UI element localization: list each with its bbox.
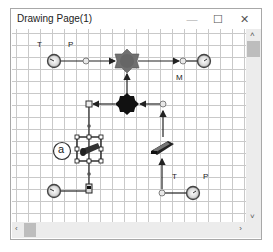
gauge-bottom-right[interactable] bbox=[186, 186, 200, 200]
label-t-bottom: T bbox=[172, 172, 177, 181]
label-p-bottom: P bbox=[203, 172, 208, 181]
scrollbar-corner bbox=[246, 222, 261, 238]
pump-component[interactable] bbox=[150, 140, 175, 156]
gauge-top-left[interactable] bbox=[47, 54, 61, 68]
drawing-canvas[interactable]: T P M T P a bbox=[12, 29, 246, 223]
scroll-right-arrow[interactable]: › bbox=[239, 224, 242, 233]
label-t-top: T bbox=[37, 40, 42, 49]
gauge-top-right[interactable] bbox=[197, 54, 211, 68]
horizontal-scrollbar[interactable]: ‹ › bbox=[12, 222, 246, 238]
vertical-scroll-thumb[interactable] bbox=[247, 41, 260, 57]
minimize-button[interactable]: — bbox=[181, 11, 203, 27]
label-m: M bbox=[176, 73, 183, 82]
horizontal-scroll-thumb[interactable] bbox=[24, 223, 36, 237]
label-circle-a: a bbox=[58, 143, 64, 155]
label-p-top: P bbox=[68, 40, 73, 49]
title-bar[interactable]: Drawing Page(1) — ☐ ✕ bbox=[11, 9, 261, 29]
valve-bottom-left[interactable] bbox=[85, 183, 93, 194]
gauge-bottom-left[interactable] bbox=[47, 184, 61, 198]
selected-pipe-component[interactable] bbox=[74, 134, 104, 164]
maximize-button[interactable]: ☐ bbox=[207, 11, 229, 27]
black-splitter-node[interactable] bbox=[114, 92, 140, 116]
vertical-scrollbar[interactable]: ˄ ˅ bbox=[246, 29, 261, 223]
window-title: Drawing Page(1) bbox=[17, 13, 92, 24]
drawing-window: Drawing Page(1) — ☐ ✕ bbox=[10, 8, 262, 240]
scroll-up-arrow[interactable]: ˄ bbox=[250, 30, 255, 39]
scroll-down-arrow[interactable]: ˅ bbox=[250, 212, 255, 221]
gray-mixer-node[interactable] bbox=[114, 48, 140, 74]
scroll-left-arrow[interactable]: ‹ bbox=[15, 224, 18, 233]
close-button[interactable]: ✕ bbox=[233, 11, 255, 27]
